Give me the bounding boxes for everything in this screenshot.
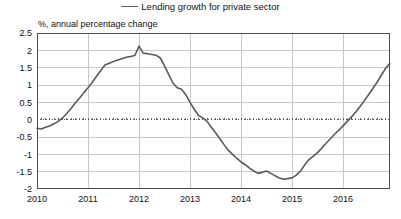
plot-frame: [38, 34, 390, 189]
y-axis-tick-label: 1: [27, 80, 32, 90]
x-axis-tick-label: 2016: [333, 194, 353, 204]
chart-container: Lending growth for private sector %, ann…: [0, 0, 401, 219]
y-axis-tick-label: 0.5: [19, 98, 32, 108]
y-axis-tick-label: -2: [24, 184, 32, 194]
x-axis-tick-label: 2010: [27, 194, 47, 204]
y-axis-tick-label: -1.5: [16, 167, 32, 177]
y-axis-tick-label: 1.5: [19, 63, 32, 73]
x-axis-tick-label: 2012: [129, 194, 149, 204]
x-axis-tick-label: 2011: [78, 194, 97, 204]
x-axis-tick-label: 2014: [231, 194, 251, 204]
data-series-line: [37, 46, 390, 179]
y-axis-tick-label: -1: [24, 150, 32, 160]
y-axis-tick-label: -0.5: [16, 132, 32, 142]
y-axis-tick-label: 2: [27, 46, 32, 56]
y-axis-tick-label: 2.5: [19, 28, 32, 38]
x-axis-tick-label: 2013: [180, 194, 200, 204]
x-axis-tick-label: 2015: [282, 194, 302, 204]
chart-plot-area: 2.521.510.50-0.5-1-1.5-22010201120122013…: [0, 0, 401, 219]
y-axis-tick-label: 0: [27, 115, 32, 125]
